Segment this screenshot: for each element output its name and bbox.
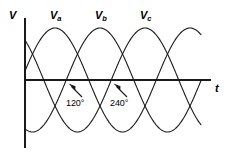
arrow-120-icon xyxy=(69,84,83,98)
three-phase-waveform-figure: V t Va Vb Vc 120° 240° xyxy=(0,0,227,153)
annotation-arrows xyxy=(69,84,128,98)
x-axis-label: t xyxy=(215,83,219,94)
vb-label-sub: b xyxy=(102,14,107,23)
vc-label-sub: c xyxy=(147,14,151,23)
waveform-plot xyxy=(0,0,227,153)
va-label-sub: a xyxy=(57,14,61,23)
vb-label: Vb xyxy=(95,10,107,21)
y-axis-label: V xyxy=(9,10,16,21)
va-label: Va xyxy=(50,10,62,21)
vc-label: Vc xyxy=(140,10,152,21)
arrow-240-icon xyxy=(114,84,128,98)
phase-120-label: 120° xyxy=(66,99,84,108)
phase-240-label: 240° xyxy=(110,99,128,108)
